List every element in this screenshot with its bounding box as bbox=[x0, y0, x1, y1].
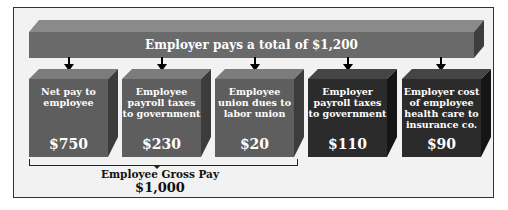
gross-pay-bracket bbox=[29, 159, 298, 166]
box-amount: $90 bbox=[402, 136, 481, 152]
bar-top-face bbox=[29, 20, 484, 32]
box-description: Employee union dues to labor union bbox=[215, 86, 294, 132]
box-net-pay: Net pay to employee $750 bbox=[29, 69, 118, 157]
box-amount: $110 bbox=[308, 136, 387, 152]
box-description: Employer payroll taxes to government bbox=[308, 86, 387, 132]
box-employer-health-care: Employer cost of employee health care to… bbox=[402, 69, 491, 157]
box-amount: $20 bbox=[215, 136, 294, 152]
box-employer-payroll-taxes: Employer payroll taxes to government $11… bbox=[308, 69, 397, 157]
box-amount: $230 bbox=[122, 136, 201, 152]
gross-pay-label: Employee Gross Pay bbox=[80, 168, 240, 180]
box-description: Net pay to employee bbox=[29, 86, 108, 132]
gross-pay-amount: $1,000 bbox=[80, 180, 240, 195]
employer-total-label: Employer pays a total of $1,200 bbox=[145, 38, 358, 52]
employer-total-bar: Employer pays a total of $1,200 bbox=[29, 20, 493, 58]
bar-front-face: Employer pays a total of $1,200 bbox=[29, 32, 474, 58]
box-description: Employer cost of employee health care to… bbox=[402, 86, 481, 132]
box-union-dues: Employee union dues to labor union $20 bbox=[215, 69, 304, 157]
box-employee-payroll-taxes: Employee payroll taxes to government $23… bbox=[122, 69, 211, 157]
box-description: Employee payroll taxes to government bbox=[122, 86, 201, 132]
box-amount: $750 bbox=[29, 136, 108, 152]
